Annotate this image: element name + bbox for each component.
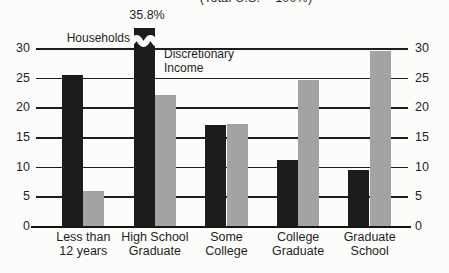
bar-households-0 <box>62 75 83 226</box>
y-axis-tick-label-left: 20 <box>0 100 30 114</box>
y-axis-tick-label-left: 30 <box>0 41 30 55</box>
bar-households-1 <box>134 28 155 226</box>
gridline-30 <box>36 48 408 50</box>
axis-break-icon <box>132 34 161 48</box>
bar-discretionary-income-4 <box>370 51 391 226</box>
y-axis-tick-label-right: 30 <box>415 41 449 55</box>
bar-chart: (Total U.S. = 100%) 35.8% Households Dis… <box>0 0 449 273</box>
y-axis-tick-label-left: 10 <box>0 160 30 174</box>
y-axis-tick-label-right: 5 <box>415 189 449 203</box>
bar-households-2 <box>205 125 226 226</box>
bar-households-3 <box>277 160 298 226</box>
y-axis-tick-label-right: 25 <box>415 71 449 85</box>
households-series-label: Households <box>38 31 130 45</box>
x-axis-category-label-4: Graduate School <box>327 231 413 258</box>
chart-title: (Total U.S. = 100%) <box>156 0 356 5</box>
gridline-20 <box>36 107 408 109</box>
y-axis-tick-label-right: 10 <box>415 160 449 174</box>
y-axis-tick-label-left: 15 <box>0 130 30 144</box>
y-axis-tick-label-left: 0 <box>0 219 30 233</box>
y-axis-tick-label-right: 20 <box>415 100 449 114</box>
bar-discretionary-income-2 <box>227 124 248 226</box>
discretionary-income-series-label: Discretionary Income <box>164 48 256 75</box>
y-axis-tick-label-right: 15 <box>415 130 449 144</box>
y-axis-tick-label-left: 25 <box>0 71 30 85</box>
bar-discretionary-income-3 <box>298 80 319 226</box>
bar-households-4 <box>348 170 369 226</box>
y-axis-tick-label-left: 5 <box>0 189 30 203</box>
bar-discretionary-income-1 <box>155 95 176 226</box>
gridline-25 <box>36 78 408 80</box>
bar-discretionary-income-0 <box>83 191 104 226</box>
x-axis-line <box>31 226 411 228</box>
broken-bar-value-label: 35.8% <box>125 8 169 22</box>
y-axis-tick-label-right: 0 <box>415 219 449 233</box>
